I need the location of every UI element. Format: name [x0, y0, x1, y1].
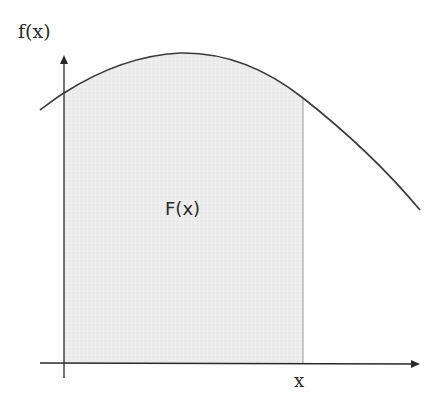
- y-axis-label: f(x): [18, 20, 51, 42]
- y-axis-arrowhead-icon: [60, 55, 68, 64]
- x-axis: [40, 363, 418, 364]
- x-axis-arrowhead-icon: [411, 360, 420, 368]
- x-marker-label: x: [294, 370, 304, 391]
- diagram-canvas: [0, 0, 444, 411]
- area-label: F(x): [165, 198, 200, 219]
